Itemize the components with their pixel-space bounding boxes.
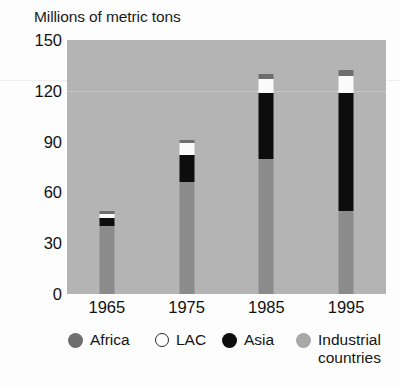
x-tick-label: 1965 <box>89 298 126 317</box>
legend-swatch-icon <box>222 333 237 348</box>
legend-item-industrial[interactable]: Industrial countries <box>296 331 381 367</box>
bar-segment-lac <box>339 76 354 93</box>
bar-1965 <box>99 40 114 294</box>
bar-1975 <box>179 40 194 294</box>
bar-segment-industrial-countries <box>99 226 114 294</box>
bar-segment-industrial-countries <box>179 182 194 294</box>
legend-label: LAC <box>176 331 206 349</box>
bar-segment-africa <box>99 211 114 214</box>
bar-segment-lac <box>99 214 114 217</box>
y-tick-label: 90 <box>0 132 62 151</box>
y-tick-label: 150 <box>0 31 62 50</box>
bar-segment-africa <box>259 74 274 79</box>
bar-segment-asia <box>259 93 274 159</box>
legend-label: Industrial countries <box>318 331 381 367</box>
y-axis: 1501209060300 <box>0 0 62 387</box>
gridline-extension-right <box>386 80 400 81</box>
bar-segment-africa <box>179 140 194 143</box>
legend-item-asia[interactable]: Asia <box>222 331 274 349</box>
bar-1995 <box>339 40 354 294</box>
legend-label: Asia <box>244 331 274 349</box>
chart-figure: Millions of metric tons 1501209060300 19… <box>0 0 400 387</box>
legend-item-lac[interactable]: LAC <box>155 331 206 349</box>
chart-legend: AfricaLACAsiaIndustrial countries <box>0 331 400 383</box>
bar-segment-asia <box>99 218 114 226</box>
bar-segment-industrial-countries <box>339 211 354 294</box>
legend-item-africa[interactable]: Africa <box>68 331 130 349</box>
y-tick-label: 30 <box>0 234 62 253</box>
bar-segment-lac <box>259 79 274 93</box>
bar-segment-industrial-countries <box>259 159 274 294</box>
x-tick-label: 1975 <box>168 298 205 317</box>
legend-label: Africa <box>90 331 130 349</box>
legend-swatch-icon <box>155 333 169 347</box>
y-tick-label: 120 <box>0 81 62 100</box>
x-tick-label: 1985 <box>248 298 285 317</box>
x-axis: 1965197519851995 <box>67 298 386 322</box>
x-tick-label: 1995 <box>328 298 365 317</box>
legend-swatch-icon <box>68 333 83 348</box>
bar-segment-asia <box>339 93 354 212</box>
legend-swatch-icon <box>296 333 311 348</box>
bar-1985 <box>259 40 274 294</box>
y-tick-label: 60 <box>0 183 62 202</box>
y-tick-label: 0 <box>0 285 62 304</box>
bar-segment-asia <box>179 155 194 182</box>
bar-segment-africa <box>339 70 354 75</box>
plot-area <box>67 40 386 294</box>
bar-segment-lac <box>179 143 194 155</box>
